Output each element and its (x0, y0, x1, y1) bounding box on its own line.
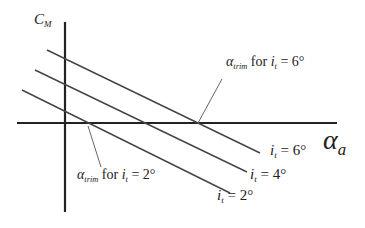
trim6-alpha-sub: trim (233, 62, 247, 71)
it4-rest: = 4° (257, 166, 286, 182)
y-axis-label: CM (34, 12, 52, 27)
leader-trim-2 (88, 126, 101, 167)
trim2-rest: = 2° (128, 167, 156, 182)
leader-trim-6 (198, 79, 222, 123)
trim2-i: i (122, 167, 126, 182)
alpha-sub: a (338, 140, 346, 159)
line-it-4 (35, 70, 247, 172)
annotation-trim-6: αtrim for it = 6° (226, 55, 304, 69)
it2-rest: = 2° (224, 187, 253, 203)
line-label-it-4: it = 4° (250, 167, 286, 182)
trim6-rest: = 6° (277, 54, 305, 69)
line-label-it-6: it = 6° (270, 143, 306, 158)
trim6-for: for (247, 54, 270, 69)
it4-sub: t (254, 174, 257, 184)
trim2-for: for (98, 167, 121, 182)
diagram-canvas (0, 0, 365, 228)
trim2-i-sub: t (126, 175, 128, 184)
it6-rest: = 6° (277, 142, 306, 158)
trim6-i-sub: t (275, 62, 277, 71)
cm-main: C (34, 11, 44, 27)
it2-sub: t (221, 195, 224, 205)
alpha-main: α (323, 124, 338, 155)
trim6-i: i (271, 54, 275, 69)
line-label-it-2: it = 2° (217, 188, 253, 203)
cm-sub: M (44, 19, 52, 29)
annotation-trim-2: αtrim for it = 2° (77, 168, 155, 182)
it6-sub: t (274, 150, 277, 160)
trim2-alpha-sub: trim (84, 175, 98, 184)
x-axis-label: αa (323, 126, 346, 154)
